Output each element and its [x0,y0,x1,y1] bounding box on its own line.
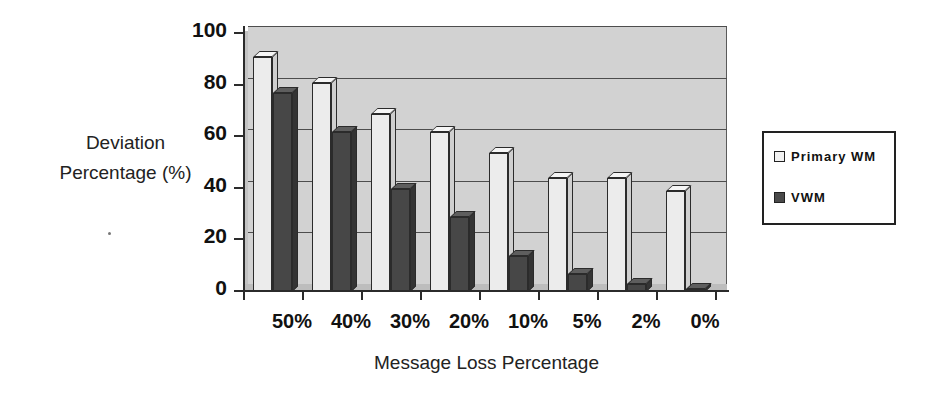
bar-front-face [253,57,272,292]
legend-swatch-icon-primary-wm [774,151,785,162]
bar-20pct-primary-wm [430,132,449,292]
bar-side-face [292,88,298,292]
bar-side-face [351,126,357,292]
bar-front-face [430,132,449,292]
x-tick-label: 20% [439,310,499,333]
bar-40pct-primary-wm [312,83,331,292]
bar-front-face [548,178,567,292]
y-tick-label: 20 [173,224,227,248]
bar-front-face [312,83,331,292]
bar-30pct-vwm [391,189,410,292]
x-tick-label: 50% [262,310,322,333]
bar-10pct-primary-wm [489,153,508,292]
bar-50pct-vwm [273,93,292,292]
bar-10pct-vwm [509,256,528,292]
bar-side-face [528,250,534,292]
x-tick-label: 10% [498,310,558,333]
legend-item-vwm: VWM [774,190,826,205]
bar-front-face [371,114,390,292]
legend-item-primary-wm: Primary WM [774,149,876,164]
x-tick-label: 0% [675,310,735,333]
x-tick [479,290,481,300]
bar-side-face [685,186,691,292]
x-tick [302,290,304,300]
bar-front-face [509,256,528,292]
legend-label-vwm: VWM [791,190,826,205]
x-tick [420,290,422,300]
bar-50pct-primary-wm [253,57,272,292]
y-tick-label: 40 [173,173,227,197]
y-tick [234,32,243,34]
x-tick [715,290,717,300]
y-tick-label: 60 [173,121,227,145]
bar-30pct-primary-wm [371,114,390,292]
y-tick [234,238,243,240]
plot-area: 020406080100 50%40%30%20%10%5%2%0% [243,26,730,292]
bar-front-face [391,189,410,292]
bar-40pct-vwm [332,132,351,292]
bar-side-face [410,183,416,292]
x-tick [361,290,363,300]
bar-20pct-vwm [450,217,469,292]
gridline [248,26,727,27]
x-tick-label: 30% [380,310,440,333]
y-axis-line [243,26,245,290]
bar-0pct-primary-wm [666,191,685,292]
x-tick [656,290,658,300]
scan-artifact-dot [108,232,111,235]
bar-front-face [273,93,292,292]
x-tick-label: 5% [557,310,617,333]
bar-chart: Deviation Percentage (%) 020406080100 50… [0,0,932,404]
bar-side-face [469,211,475,292]
y-tick-label: 80 [173,70,227,94]
bar-front-face [450,217,469,292]
bar-front-face [332,132,351,292]
bar-2pct-primary-wm [607,178,626,292]
legend-label-primary-wm: Primary WM [791,149,876,164]
y-tick-label: 100 [173,18,227,42]
x-tick [538,290,540,300]
legend-swatch-icon-vwm [774,192,785,203]
y-tick [234,135,243,137]
y-tick-label: 0 [173,276,227,300]
legend: Primary WM VWM [762,131,896,225]
x-axis-title: Message Loss Percentage [243,352,730,374]
x-tick-label: 40% [321,310,381,333]
bar-side-face [626,173,632,292]
x-tick [243,290,245,300]
bar-front-face [666,191,685,292]
bar-5pct-primary-wm [548,178,567,292]
x-tick-label: 2% [616,310,676,333]
y-tick [234,84,243,86]
bar-front-face [607,178,626,292]
x-tick [597,290,599,300]
y-tick [234,187,243,189]
bar-front-face [489,153,508,292]
y-tick [234,290,243,292]
